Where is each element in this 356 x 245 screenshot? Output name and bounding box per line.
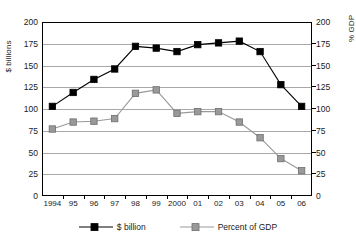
data-point-marker — [278, 155, 284, 161]
data-point-marker — [236, 38, 242, 44]
series-layer — [42, 22, 312, 196]
x-axis-tick-mark — [84, 196, 85, 199]
x-axis-tick-mark — [208, 196, 209, 199]
y-axis-right-tick-label: 175 — [316, 39, 342, 49]
data-point-marker — [215, 40, 221, 46]
data-point-marker — [257, 135, 263, 141]
x-axis-tick-mark — [229, 196, 230, 199]
y-axis-left-tick-label: 175 — [12, 39, 38, 49]
x-axis-tick-mark — [125, 196, 126, 199]
y-axis-right-tick-mark — [312, 86, 316, 87]
data-point-marker — [174, 110, 180, 116]
legend-label: $ billion — [117, 222, 146, 232]
data-point-marker — [195, 108, 201, 114]
data-point-marker — [70, 119, 76, 125]
x-axis-tick-mark — [104, 196, 105, 199]
data-point-marker — [153, 45, 159, 51]
y-axis-left-tick-label: 125 — [12, 82, 38, 92]
y-axis-left-tick-label: 75 — [12, 126, 38, 136]
legend-item[interactable]: $ billion — [79, 222, 146, 232]
y-axis-right-tick-label: 200 — [316, 17, 342, 27]
data-point-marker — [278, 81, 284, 87]
x-axis-tick-mark — [146, 196, 147, 199]
legend-swatch-icon — [79, 222, 113, 232]
y-axis-right-tick-mark — [312, 108, 316, 109]
legend-swatch-icon — [180, 222, 214, 232]
data-point-marker — [215, 108, 221, 114]
data-point-marker — [70, 89, 76, 95]
y-axis-right-tick-label: 75 — [316, 126, 342, 136]
x-axis-tick-mark — [270, 196, 271, 199]
data-point-marker — [153, 87, 159, 93]
y-axis-right-tick-label: 150 — [316, 61, 342, 71]
legend-item[interactable]: Percent of GDP — [180, 222, 278, 232]
x-axis-tick-mark — [291, 196, 292, 199]
data-point-marker — [111, 66, 117, 72]
y-axis-left-tick-label: 100 — [12, 104, 38, 114]
y-axis-right-tick-label: 125 — [316, 82, 342, 92]
data-point-marker — [257, 48, 263, 54]
series-line — [52, 90, 301, 171]
y-axis-right-tick-mark — [312, 65, 316, 66]
chart-container: $ billions % GDP 20020017517515015012512… — [0, 0, 356, 245]
data-point-marker — [49, 126, 55, 132]
y-axis-right-tick-label: 25 — [316, 169, 342, 179]
y-axis-left-tick-label: 200 — [12, 17, 38, 27]
y-axis-right-tick-mark — [312, 43, 316, 44]
chart-legend: $ billionPercent of GDP — [0, 222, 356, 232]
data-point-marker — [236, 119, 242, 125]
x-axis-tick-mark — [167, 196, 168, 199]
data-point-marker — [195, 41, 201, 47]
data-point-marker — [298, 103, 304, 109]
y-axis-right-tick-label: 100 — [316, 104, 342, 114]
y-axis-right-tick-label: 50 — [316, 148, 342, 158]
data-point-marker — [174, 48, 180, 54]
x-axis-tick-mark — [250, 196, 251, 199]
legend-label: Percent of GDP — [218, 222, 278, 232]
y-axis-right-tick-label: 0 — [316, 191, 342, 201]
data-point-marker — [91, 76, 97, 82]
data-point-marker — [111, 115, 117, 121]
y-axis-left-tick-label: 150 — [12, 61, 38, 71]
data-point-marker — [298, 168, 304, 174]
data-point-marker — [132, 43, 138, 49]
y-axis-left-tick-label: 25 — [12, 169, 38, 179]
data-point-marker — [132, 90, 138, 96]
x-axis-tick-mark — [187, 196, 188, 199]
data-point-marker — [91, 118, 97, 124]
y-axis-right-tick-mark — [312, 130, 316, 131]
y-axis-left-tick-label: 50 — [12, 148, 38, 158]
y-axis-right-tick-mark — [312, 152, 316, 153]
y-axis-left-tick-label: 0 — [12, 191, 38, 201]
x-axis-tick-mark — [63, 196, 64, 199]
y-axis-right-tick-mark — [312, 173, 316, 174]
x-axis-tick-label: 06 — [285, 199, 319, 208]
data-point-marker — [49, 103, 55, 109]
y-axis-right-title: % GDP — [347, 7, 356, 51]
